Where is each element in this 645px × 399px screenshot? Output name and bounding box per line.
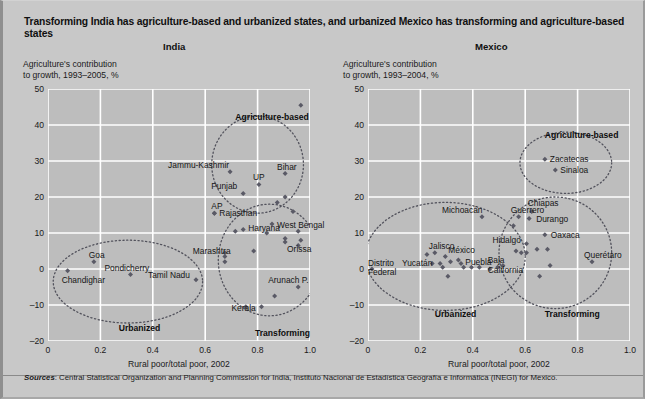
point-label: Pondicherry	[105, 264, 150, 273]
point-label: Michoacán	[442, 206, 483, 215]
point-label: Orissa	[287, 245, 311, 254]
point-label: Haryana	[248, 224, 280, 233]
point-label: Sinaloa	[560, 166, 588, 175]
point-label: Bihar	[277, 163, 297, 172]
point-label: Durango	[536, 215, 568, 224]
plot-svg	[48, 89, 310, 341]
figure-container: Transforming India has agriculture-based…	[0, 0, 645, 399]
cluster-label-transforming: Transforming	[545, 309, 600, 319]
data-point	[514, 249, 519, 254]
x-axis-label-mexico: Rural poor/total poor, 2002	[368, 359, 630, 369]
point-label: Punjab	[211, 182, 237, 191]
y-axis-caption-india: Agriculture's contribution to growth, 19…	[23, 59, 119, 80]
data-point	[537, 274, 542, 279]
y-tick-label: 0	[342, 264, 364, 274]
y-tick-label: 50	[22, 84, 44, 94]
x-tick-label: 0	[35, 345, 61, 355]
plot-area-india	[48, 89, 310, 341]
y-tick-label: 40	[342, 120, 364, 130]
y-tick-label: –20	[22, 336, 44, 346]
point-label: Jammu-Kashmir	[168, 161, 229, 170]
data-point	[445, 274, 450, 279]
data-point	[443, 254, 448, 259]
y-tick-label: 10	[22, 228, 44, 238]
panel-title-mexico: Mexico	[475, 41, 508, 52]
data-point	[545, 247, 550, 252]
panel-title-india: India	[163, 41, 185, 52]
data-point	[548, 263, 553, 268]
data-point	[534, 247, 539, 252]
y-axis-caption-mexico: Agriculture's contribution to growth, 19…	[343, 59, 439, 80]
data-point	[275, 200, 280, 205]
y-tick-label: –10	[342, 300, 364, 310]
x-tick-label: 1.0	[297, 345, 323, 355]
data-point	[448, 259, 453, 264]
x-tick-label: 0.2	[407, 345, 433, 355]
data-point	[241, 227, 246, 232]
point-label: Kerala	[232, 304, 256, 313]
y-tick-label: –20	[342, 336, 364, 346]
point-label: West Bengal	[277, 221, 324, 230]
data-point	[272, 294, 277, 299]
data-point	[251, 249, 256, 254]
y-tick-label: 0	[22, 264, 44, 274]
plot-area-mexico	[368, 89, 630, 341]
point-label: Hidalgo	[493, 236, 521, 245]
cluster-label-agriculture-based: Agriculture-based	[235, 112, 309, 122]
data-point	[553, 168, 558, 173]
data-point	[511, 223, 516, 228]
point-label: Tamil Nadu	[148, 271, 190, 280]
point-label: Arunach P.	[268, 276, 308, 285]
data-point	[527, 216, 532, 221]
data-point	[194, 277, 199, 282]
point-label: Chandighar	[62, 276, 105, 285]
point-label: Rajasthan	[219, 209, 257, 218]
data-point	[459, 261, 464, 266]
data-point	[222, 259, 227, 264]
x-tick-label: 0.8	[565, 345, 591, 355]
y-tick-label: 10	[342, 228, 364, 238]
point-label: Zacatecas	[550, 155, 589, 164]
y-tick-label: 50	[342, 84, 364, 94]
figure-title: Transforming India has agriculture-based…	[24, 16, 634, 40]
point-label: México	[448, 246, 475, 255]
data-point	[241, 191, 246, 196]
y-tick-label: 30	[22, 156, 44, 166]
point-label: DistritoFederal	[368, 259, 396, 278]
sources-note: Sources: Central Statistical Organizatio…	[24, 373, 639, 383]
x-tick-label: 1.0	[617, 345, 643, 355]
sources-label: Sources	[24, 373, 55, 382]
point-label: UP	[253, 173, 265, 182]
cluster-label-agriculture-based: Agriculture-based	[545, 130, 619, 140]
plot-svg	[368, 89, 630, 341]
y-tick-label: 30	[342, 156, 364, 166]
point-label: BajaCalifornia	[488, 256, 523, 275]
data-point	[456, 258, 461, 263]
point-label: Oaxaca	[551, 231, 580, 240]
x-tick-label: 0.4	[460, 345, 486, 355]
x-tick-label: 0.4	[140, 345, 166, 355]
x-tick-label: 0.6	[512, 345, 538, 355]
x-tick-label: 0	[355, 345, 381, 355]
cluster-label-transforming: Transforming	[255, 328, 310, 338]
data-point	[298, 103, 303, 108]
x-axis-label-india: Rural poor/total poor, 2002	[48, 359, 310, 369]
y-tick-label: –10	[22, 300, 44, 310]
data-point	[283, 195, 288, 200]
y-tick-label: 20	[22, 192, 44, 202]
sources-text: : Central Statistical Organization and P…	[55, 373, 558, 382]
point-label: Chiapas	[528, 199, 559, 208]
x-tick-label: 0.6	[192, 345, 218, 355]
data-point	[519, 250, 524, 255]
y-tick-label: 20	[342, 192, 364, 202]
cluster-label-urbanized: Urbanized	[435, 309, 477, 319]
point-label: Querétaro	[584, 251, 622, 260]
x-tick-label: 0.8	[245, 345, 271, 355]
data-point	[424, 252, 429, 257]
cluster-label-urbanized: Urbanized	[119, 323, 161, 333]
point-label: Goa	[89, 251, 105, 260]
point-label: Marashtra	[193, 247, 231, 256]
data-point	[298, 238, 303, 243]
data-point	[438, 261, 443, 266]
y-tick-label: 40	[22, 120, 44, 130]
